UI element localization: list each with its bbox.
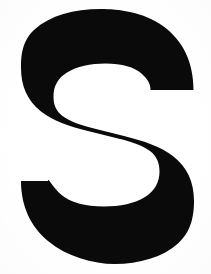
glyph-layer: A large black bold uppercase letter S on… <box>0 0 211 274</box>
letter-s-glyph: A large black bold uppercase letter S on… <box>0 0 211 274</box>
image-canvas: A large black bold uppercase letter S on… <box>0 0 211 274</box>
